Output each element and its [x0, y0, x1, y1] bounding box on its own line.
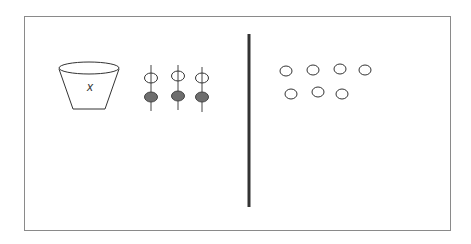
filled-counter-icon: [145, 92, 158, 102]
open-counter-icon: [334, 64, 346, 74]
open-counter-icon: [285, 89, 297, 99]
open-counter-icon: [359, 65, 371, 75]
counter-pair-2: [172, 65, 185, 110]
open-counter-icon: [280, 66, 292, 76]
filled-counter-icon: [196, 92, 209, 102]
counter-pair-3: [196, 67, 209, 112]
filled-counter-icon: [172, 91, 185, 101]
right-counters: [280, 64, 371, 99]
open-counter-icon: [336, 89, 348, 99]
counter-pair-1: [145, 65, 158, 111]
cup-label: x: [82, 80, 98, 94]
equation-diagram: [0, 0, 471, 244]
open-counter-icon: [307, 65, 319, 75]
open-counter-icon: [312, 87, 324, 97]
